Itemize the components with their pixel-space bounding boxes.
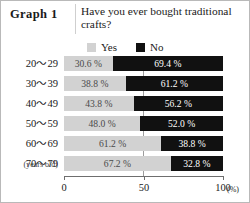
category-label: 60～69 [1,136,58,151]
x-axis-tick-label: 0 [61,182,66,193]
bar-row: 60～6961.2 %38.8 % [1,136,250,151]
bar-segment-yes: 67.2 % [64,156,171,171]
legend-item-yes: Yes [87,42,117,53]
x-axis-line [64,176,223,177]
bar-segment-no: 38.8 % [161,136,223,151]
stacked-bar: 67.2 %32.8 % [64,156,223,171]
bar-segment-no: 69.4 % [113,56,223,71]
bar-segment-yes: 61.2 % [64,136,161,151]
no-swatch-icon [136,43,145,52]
x-axis-tick [64,176,65,180]
bar-row: 40～4943.8 %56.2 % [1,96,250,111]
legend-label: Yes [101,42,117,53]
stacked-bar: 48.0 %52.0 % [64,116,223,131]
bar-segment-yes: 48.0 % [64,116,140,131]
bar-segment-yes: 30.6 % [64,56,113,71]
bar-segment-yes: 43.8 % [64,96,134,111]
chart-plot-area: 20～2930.6 %69.4 %30～3938.8 %61.2 %40～494… [1,56,250,176]
header-divider [75,4,76,34]
yes-swatch-icon [87,43,96,52]
bar-rows: 20～2930.6 %69.4 %30～3938.8 %61.2 %40～494… [1,56,250,176]
legend-item-no: No [136,42,163,53]
category-label: 30～39 [1,76,58,91]
category-label: 40～49 [1,96,58,111]
category-label: 20～29 [1,56,58,71]
bar-segment-no: 32.8 % [171,156,223,171]
stacked-bar: 61.2 %38.8 % [64,136,223,151]
stacked-bar: 43.8 %56.2 % [64,96,223,111]
x-axis-unit-label: (%) [227,185,239,194]
x-axis-tick [223,176,224,180]
bar-segment-no: 61.2 % [126,76,223,91]
question-text: Have you ever bought traditional crafts? [81,5,244,31]
x-axis-tick-label: 50 [139,182,149,193]
legend-label: No [150,42,163,53]
chart-legend: YesNo [87,41,182,53]
x-axis-tick [144,176,145,180]
category-axis-note: (years old) [1,160,58,169]
stacked-bar: 38.8 %61.2 % [64,76,223,91]
bar-segment-no: 56.2 % [134,96,223,111]
graph-figure: Graph 1 Have you ever bought traditional… [0,0,250,203]
stacked-bar: 30.6 %69.4 % [64,56,223,71]
figure-header: Graph 1 Have you ever bought traditional… [1,1,250,37]
bar-row: 50～5948.0 %52.0 % [1,116,250,131]
bar-segment-no: 52.0 % [140,116,223,131]
graph-number-label: Graph 1 [10,7,72,22]
category-label: 50～59 [1,116,58,131]
bar-row: 20～2930.6 %69.4 % [1,56,250,71]
bar-row: 30～3938.8 %61.2 % [1,76,250,91]
bar-segment-yes: 38.8 % [64,76,126,91]
